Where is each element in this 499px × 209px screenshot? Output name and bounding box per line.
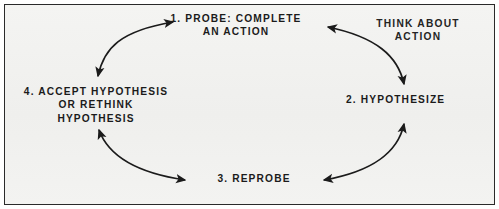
node-reprobe: 3. REPROBE xyxy=(190,172,318,185)
node-hypothesize: 2. HYPOTHESIZE xyxy=(346,93,486,106)
node-accept-or-rethink-hypothesis: 4. ACCEPT HYPOTHESIS OR RETHINK HYPOTHES… xyxy=(8,85,184,125)
node-probe: 1. PROBE: COMPLETE AN ACTION xyxy=(150,12,322,39)
diagram-canvas: 1. PROBE --> 2. HYPOTHESIZE --> 3. REPRO… xyxy=(0,0,499,209)
node-think-about-action: THINK ABOUT ACTION xyxy=(356,17,480,44)
